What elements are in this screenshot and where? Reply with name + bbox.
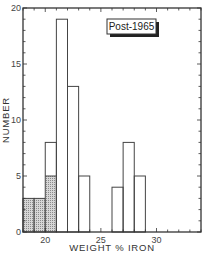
bar-outline <box>112 187 123 232</box>
bar-outline <box>56 19 67 232</box>
bar-outline <box>134 176 145 232</box>
hatched-segment <box>23 198 34 232</box>
histogram-chart: 20253005101520 WEIGHT % IRON NUMBER Post… <box>0 0 207 255</box>
y-tick-label: 15 <box>11 59 21 69</box>
histogram-bars <box>23 19 145 232</box>
annotation-label: Post-1965 <box>109 21 155 32</box>
histogram-bar <box>112 187 123 232</box>
y-tick-label: 20 <box>11 3 21 13</box>
histogram-bar <box>34 198 45 232</box>
histogram-bar <box>68 86 79 232</box>
histogram-bar <box>79 176 90 232</box>
x-tick-label: 20 <box>40 235 50 245</box>
hatched-segment <box>45 176 56 232</box>
y-tick-label: 0 <box>16 227 21 237</box>
y-tick-label: 10 <box>11 115 21 125</box>
hatched-segment <box>34 198 45 232</box>
annotation-box: Post-1965 <box>107 19 159 37</box>
histogram-bar <box>134 176 145 232</box>
histogram-bar <box>23 198 34 232</box>
histogram-bar <box>56 19 67 232</box>
bar-outline <box>123 142 134 232</box>
y-axis-title: NUMBER <box>0 97 11 143</box>
y-tick-label: 5 <box>16 171 21 181</box>
x-axis-title: WEIGHT % IRON <box>69 242 155 253</box>
histogram-bar <box>123 142 134 232</box>
bar-outline <box>68 86 79 232</box>
bar-outline <box>79 176 90 232</box>
histogram-bar <box>45 142 56 232</box>
